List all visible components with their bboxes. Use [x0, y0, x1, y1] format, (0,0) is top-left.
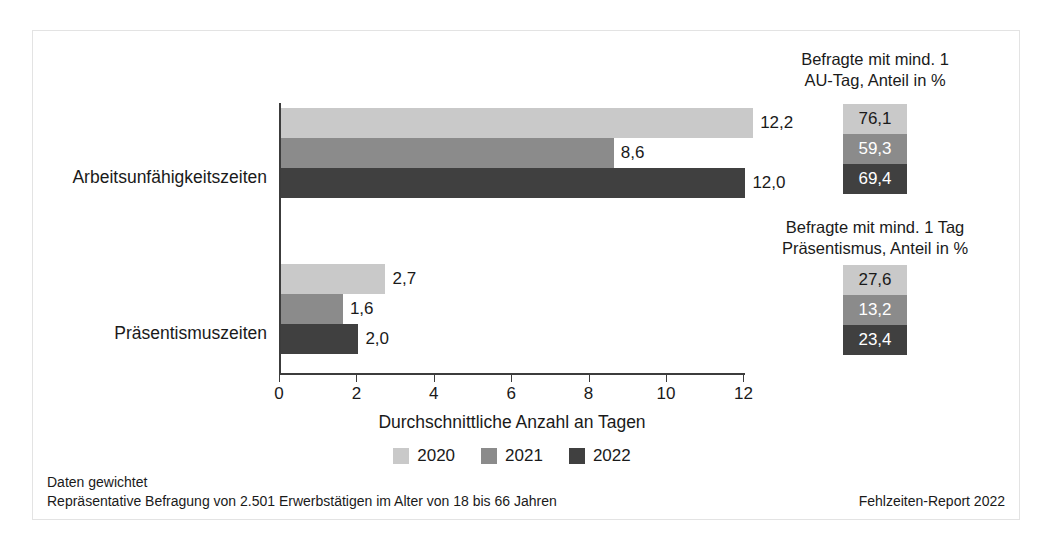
x-tick-0 — [279, 375, 280, 382]
x-tick-12 — [743, 375, 744, 382]
side-panel-1-title-line1: Befragte mit mind. 1 — [745, 49, 1005, 70]
x-tick-10 — [666, 375, 667, 382]
legend-swatch-2022 — [569, 448, 585, 464]
side-panel-2-values: 27,6 13,2 23,4 — [843, 265, 907, 355]
x-tick-label-4: 4 — [414, 384, 454, 404]
bar-value-2022-group-2: 2,0 — [358, 324, 389, 354]
side-panel-2-title-line1: Befragte mit mind. 1 Tag — [745, 217, 1005, 238]
bar-2022-group-2[interactable] — [281, 324, 358, 354]
side-panel-2-title-line2: Präsentismus, Anteil in % — [745, 238, 1005, 259]
bar-2021-group-1[interactable] — [281, 138, 614, 168]
source-label: Fehlzeiten-Report 2022 — [859, 493, 1005, 509]
side-panel-1-value-2022: 69,4 — [843, 164, 907, 194]
side-panel-1-title-line2: AU-Tag, Anteil in % — [745, 70, 1005, 91]
chart-legend: 2020 2021 2022 — [279, 446, 745, 466]
category-label-arbeitsunfaehigkeitszeiten: Arbeitsunfähigkeitszeiten — [72, 167, 267, 188]
bar-2022-group-1[interactable] — [281, 168, 745, 198]
legend-item-2022[interactable]: 2022 — [569, 446, 631, 466]
x-tick-label-12: 12 — [723, 384, 763, 404]
x-tick-label-0: 0 — [259, 384, 299, 404]
legend-swatch-2020 — [393, 448, 409, 464]
bar-2020-group-1[interactable] — [281, 108, 753, 138]
legend-label-2020: 2020 — [417, 446, 455, 466]
bar-value-2021-group-2: 1,6 — [343, 294, 374, 324]
side-panel-2-value-2020: 27,6 — [843, 265, 907, 295]
legend-item-2020[interactable]: 2020 — [393, 446, 455, 466]
x-tick-2 — [356, 375, 357, 382]
chart-figure: 024681012 12,28,612,02,71,62,0 Arbeitsun… — [32, 30, 1020, 520]
bar-value-2022-group-1: 12,0 — [745, 168, 785, 198]
x-axis-title: Durchschnittliche Anzahl an Tagen — [279, 412, 745, 433]
bar-value-2020-group-1: 12,2 — [753, 108, 793, 138]
plot-area: 024681012 12,28,612,02,71,62,0 Arbeitsun… — [33, 31, 1019, 519]
x-tick-label-2: 2 — [336, 384, 376, 404]
side-panel-1-value-2020: 76,1 — [843, 104, 907, 134]
legend-item-2021[interactable]: 2021 — [481, 446, 543, 466]
side-panel-2-title: Befragte mit mind. 1 Tag Präsentismus, A… — [745, 217, 1005, 259]
x-tick-label-6: 6 — [491, 384, 531, 404]
legend-label-2022: 2022 — [593, 446, 631, 466]
legend-label-2021: 2021 — [505, 446, 543, 466]
category-label-praesentismuszeiten: Präsentismuszeiten — [114, 323, 267, 344]
bar-2020-group-2[interactable] — [281, 264, 385, 294]
legend-swatch-2021 — [481, 448, 497, 464]
side-panel-1-values: 76,1 59,3 69,4 — [843, 104, 907, 194]
footnote-line-2: Repräsentative Befragung von 2.501 Erwer… — [47, 493, 557, 509]
side-panel-1-title: Befragte mit mind. 1 AU-Tag, Anteil in % — [745, 49, 1005, 91]
x-tick-label-8: 8 — [569, 384, 609, 404]
footnote-line-1: Daten gewichtet — [47, 474, 147, 490]
bar-value-2021-group-1: 8,6 — [614, 138, 645, 168]
side-panel-2-value-2021: 13,2 — [843, 295, 907, 325]
x-tick-6 — [511, 375, 512, 382]
side-panel-2-value-2022: 23,4 — [843, 325, 907, 355]
bar-value-2020-group-2: 2,7 — [385, 264, 416, 294]
x-tick-4 — [434, 375, 435, 382]
side-panel-1-value-2021: 59,3 — [843, 134, 907, 164]
bar-2021-group-2[interactable] — [281, 294, 343, 324]
x-tick-label-10: 10 — [646, 384, 686, 404]
x-tick-8 — [589, 375, 590, 382]
